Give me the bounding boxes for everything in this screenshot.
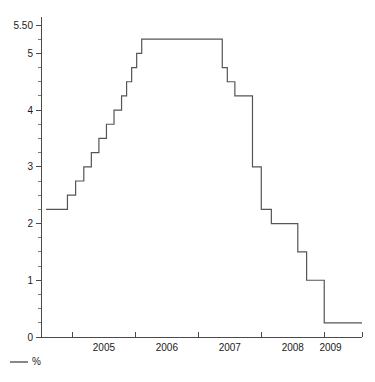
x-axis-tick-label: 2005 <box>93 342 116 353</box>
x-axis-tick-label: 2009 <box>319 342 342 353</box>
legend-label: % <box>32 356 41 367</box>
y-axis-tick-label: 5 <box>27 48 33 59</box>
x-axis: 20052006200720082009 <box>41 332 362 353</box>
series-group <box>46 39 362 323</box>
y-axis-tick-label: 2 <box>27 218 33 229</box>
y-axis-tick-label: 1 <box>27 275 33 286</box>
x-axis-tick-label: 2006 <box>156 342 179 353</box>
y-axis-tick-label: 0 <box>27 332 33 343</box>
rate-line-chart: 0123455.50 20052006200720082009 % <box>0 0 375 382</box>
series-line- <box>46 39 362 323</box>
y-axis: 0123455.50 <box>14 17 41 343</box>
x-axis-tick-label: 2008 <box>282 342 305 353</box>
chart-container: 0123455.50 20052006200720082009 % <box>0 0 375 382</box>
x-axis-tick-label: 2007 <box>219 342 242 353</box>
y-axis-tick-label: 4 <box>27 105 33 116</box>
y-axis-tick-label: 5.50 <box>14 20 34 31</box>
chart-legend: % <box>10 356 41 367</box>
y-axis-tick-label: 3 <box>27 161 33 172</box>
